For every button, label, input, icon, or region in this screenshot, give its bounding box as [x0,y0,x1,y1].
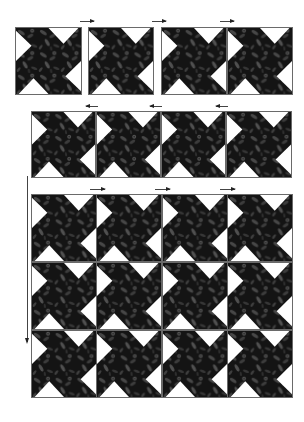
arrow-right-icon [220,189,235,190]
arrow-right-icon [90,189,105,190]
quilt-block [31,330,97,398]
quilt-block [31,111,96,178]
arrow-left-icon [86,106,98,107]
quilt-block [162,194,228,262]
quilt-block [31,194,97,262]
quilt-block [162,262,228,330]
quilt-block [96,194,162,262]
quilt-block [161,27,227,95]
quilt-block [15,27,82,95]
quilt-block [227,330,293,398]
quilt-block [226,111,292,178]
arrow-right-icon [152,21,166,22]
quilt-block [227,27,293,95]
arrow-left-icon [216,106,228,107]
quilt-block [162,330,228,398]
quilt-block [161,111,226,178]
quilt-block [96,330,162,398]
arrow-right-icon [220,21,234,22]
quilt-block [227,262,293,330]
arrow-down-icon [27,176,28,342]
quilt-block [96,262,162,330]
quilt-block [227,194,293,262]
arrow-right-icon [155,189,170,190]
arrow-left-icon [150,106,162,107]
quilt-block [88,27,154,95]
arrow-right-icon [80,21,94,22]
quilt-block [96,111,161,178]
quilt-block [31,262,97,330]
